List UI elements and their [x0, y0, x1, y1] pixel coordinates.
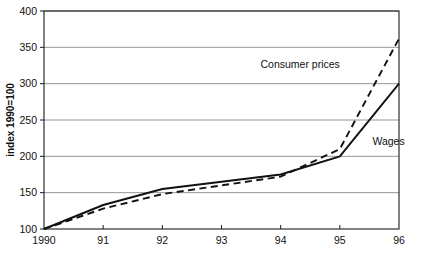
- y-tick-label: 350: [19, 41, 37, 53]
- x-axis-tick-labels: 1990919293949596: [32, 234, 405, 246]
- gridlines-group: [44, 11, 399, 193]
- x-tick-label: 92: [156, 234, 168, 246]
- x-tick-label: 1990: [32, 234, 56, 246]
- x-tickmarks-group: [103, 225, 340, 229]
- x-tick-label: 91: [97, 234, 109, 246]
- y-tick-label: 150: [19, 186, 37, 198]
- x-tick-label: 95: [334, 234, 346, 246]
- y-tickmarks-group: [40, 11, 44, 229]
- consumer-prices-label: Consumer prices: [260, 58, 339, 70]
- line-chart: 400350300250200150100 1990919293949596 i…: [0, 0, 426, 261]
- y-tick-label: 100: [19, 223, 37, 235]
- y-axis-tick-labels: 400350300250200150100: [19, 5, 37, 235]
- y-tick-label: 250: [19, 114, 37, 126]
- x-tick-label: 96: [393, 234, 405, 246]
- series-line-consumer-prices: [44, 39, 399, 229]
- x-tick-label: 94: [275, 234, 287, 246]
- y-axis-title: index 1990=100: [5, 83, 16, 157]
- y-tick-label: 200: [19, 150, 37, 162]
- chart-canvas: 400350300250200150100 1990919293949596 i…: [0, 0, 426, 261]
- wages-label: Wages: [372, 135, 404, 147]
- x-tick-label: 93: [216, 234, 228, 246]
- y-tick-label: 400: [19, 5, 37, 17]
- y-tick-label: 300: [19, 77, 37, 89]
